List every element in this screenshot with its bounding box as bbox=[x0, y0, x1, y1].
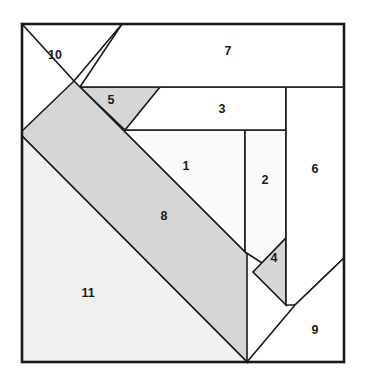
region-7 bbox=[80, 24, 344, 87]
region-label-5: 5 bbox=[108, 93, 115, 107]
region-label-9: 9 bbox=[312, 323, 319, 337]
regions-group bbox=[22, 24, 344, 362]
region-label-6: 6 bbox=[312, 162, 319, 176]
region-label-4: 4 bbox=[271, 251, 278, 265]
region-label-11: 11 bbox=[81, 286, 94, 300]
diagram-root: 1234567891011 bbox=[0, 0, 365, 381]
region-2 bbox=[245, 130, 286, 263]
region-label-10: 10 bbox=[48, 48, 62, 62]
geometric-dissection-figure: 1234567891011 bbox=[0, 0, 365, 381]
region-label-8: 8 bbox=[161, 209, 168, 223]
region-label-7: 7 bbox=[225, 44, 232, 58]
region-label-2: 2 bbox=[262, 173, 269, 187]
region-label-1: 1 bbox=[183, 159, 190, 173]
region-label-3: 3 bbox=[219, 102, 226, 116]
